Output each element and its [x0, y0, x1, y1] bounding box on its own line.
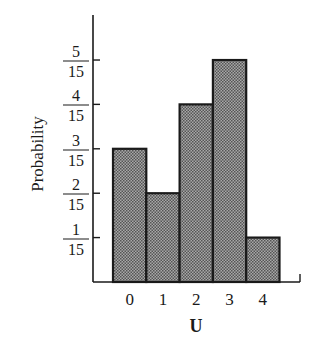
- fraction-numerator: 5: [63, 43, 89, 62]
- bars-group: [113, 60, 280, 282]
- fraction-denominator: 15: [63, 62, 89, 80]
- fraction-numerator: 3: [63, 131, 89, 150]
- fraction-numerator: 4: [63, 87, 89, 106]
- y-tick-label: 415: [63, 87, 89, 124]
- y-tick-label: 115: [63, 220, 89, 257]
- x-tick-label: 1: [159, 290, 168, 310]
- x-axis-label: U: [190, 316, 203, 337]
- y-tick-label: 215: [63, 176, 89, 213]
- x-tick-label: 3: [225, 290, 234, 310]
- fraction-denominator: 15: [63, 239, 89, 257]
- x-tick-label: 2: [192, 290, 201, 310]
- bar-4: [246, 238, 279, 282]
- x-tick-label: 4: [259, 290, 268, 310]
- fraction-denominator: 15: [63, 106, 89, 124]
- y-ticks-group: [93, 60, 100, 238]
- fraction-denominator: 15: [63, 195, 89, 213]
- y-axis-label: Probability: [28, 116, 48, 192]
- fraction-numerator: 2: [63, 176, 89, 195]
- y-tick-label: 515: [63, 43, 89, 80]
- bar-1: [146, 193, 179, 282]
- bar-2: [180, 104, 213, 282]
- fraction-numerator: 1: [63, 220, 89, 239]
- x-tick-label: 0: [125, 290, 134, 310]
- bar-3: [213, 60, 246, 282]
- bar-0: [113, 149, 146, 282]
- fraction-denominator: 15: [63, 150, 89, 168]
- y-tick-label: 315: [63, 131, 89, 168]
